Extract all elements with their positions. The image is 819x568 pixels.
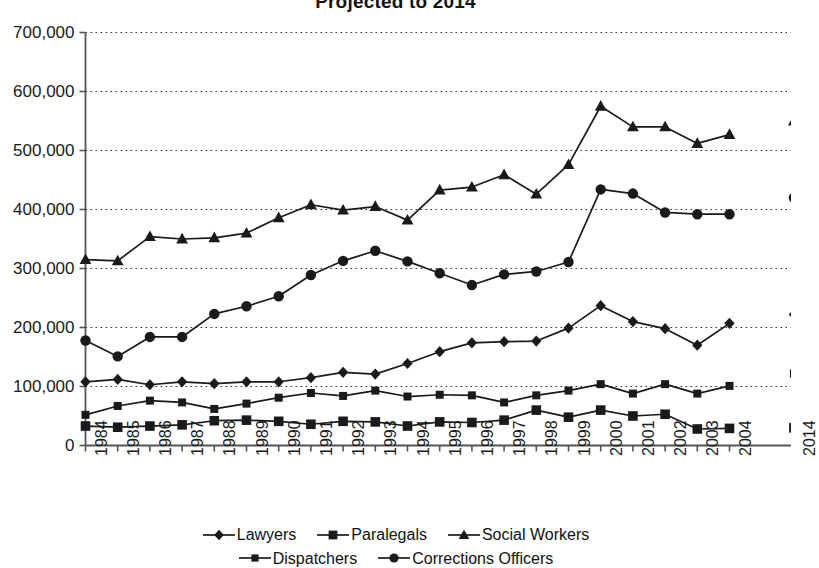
data-point-marker (402, 358, 412, 369)
data-point-marker (307, 389, 315, 397)
data-point-marker (499, 415, 509, 425)
x-axis-label: 1984 (93, 420, 111, 456)
y-axis-label: 200,000 (0, 318, 75, 338)
legend-marker-icon (238, 550, 272, 566)
data-point-marker (306, 270, 316, 280)
data-point-marker (467, 337, 477, 348)
x-axis-label: 2014 (801, 420, 819, 456)
data-point-marker (144, 230, 156, 241)
x-axis-label: 2004 (737, 420, 755, 456)
data-point-marker (210, 416, 220, 426)
data-point-marker (338, 367, 348, 378)
data-point-marker (274, 376, 284, 387)
legend-marker-icon (377, 550, 411, 566)
data-point-marker (146, 397, 154, 405)
data-point-marker (661, 380, 669, 388)
data-point-marker (209, 378, 219, 389)
data-point-marker (725, 424, 735, 434)
data-point-marker (724, 209, 734, 219)
x-axis-label: 1997 (511, 420, 529, 456)
data-point-marker (790, 370, 791, 378)
data-point-marker (467, 418, 477, 428)
x-axis-label: 2000 (608, 420, 626, 456)
data-point-marker (241, 376, 251, 387)
legend-item-label: Lawyers (237, 526, 297, 543)
data-point-marker (339, 392, 347, 400)
legend-item-label: Social Workers (482, 526, 589, 543)
data-point-marker (724, 128, 736, 139)
data-point-marker (80, 335, 90, 345)
data-point-marker (660, 207, 670, 217)
x-axis-label: 1994 (415, 420, 433, 456)
chart-legend: LawyersParalegalsSocial WorkersDispatche… (0, 523, 791, 568)
data-point-marker (726, 382, 734, 390)
data-point-marker (659, 121, 671, 132)
data-point-marker (693, 390, 701, 398)
x-axis-label: 1991 (318, 420, 336, 456)
data-point-marker (209, 309, 219, 319)
legend-item-social-workers[interactable]: Social Workers (447, 523, 589, 546)
y-axis-label: 0 (0, 436, 75, 456)
data-point-marker (564, 412, 574, 422)
y-axis-label: 600,000 (0, 82, 75, 102)
data-point-marker (145, 332, 155, 342)
data-point-marker (82, 411, 90, 419)
data-point-marker (371, 387, 379, 395)
data-point-marker (499, 336, 509, 347)
data-point-marker (369, 200, 381, 211)
data-point-marker (499, 269, 509, 279)
legend-marker-icon (447, 527, 481, 543)
data-point-marker (113, 422, 123, 432)
data-point-marker (114, 402, 122, 410)
data-point-marker (660, 323, 670, 334)
legend-row: DispatchersCorrections Officers (0, 546, 791, 568)
legend-marker-icon (316, 527, 350, 543)
x-axis-label: 1992 (350, 420, 368, 456)
data-point-marker (435, 346, 445, 357)
data-point-marker (789, 309, 791, 320)
x-axis-label: 1989 (254, 420, 272, 456)
data-point-marker (596, 300, 606, 311)
x-axis-label: 1990 (286, 420, 304, 456)
data-point-marker (338, 417, 348, 427)
data-point-marker (113, 374, 123, 385)
x-axis-label: 1998 (543, 420, 561, 456)
y-axis-label: 300,000 (0, 259, 75, 279)
legend-item-lawyers[interactable]: Lawyers (202, 523, 297, 546)
data-point-marker (596, 184, 606, 194)
data-point-marker (563, 257, 573, 267)
legend-item-paralegals[interactable]: Paralegals (316, 523, 427, 546)
data-point-marker (628, 411, 638, 421)
data-point-marker (468, 391, 476, 399)
data-point-marker (595, 100, 607, 111)
x-axis-label: 1988 (221, 420, 239, 456)
legend-row: LawyersParalegalsSocial Workers (0, 523, 791, 546)
legend-marker-icon (202, 527, 236, 543)
data-point-marker (113, 351, 123, 361)
data-point-marker (274, 417, 284, 427)
x-axis-label: 2003 (704, 420, 722, 456)
legend-item-label: Paralegals (351, 526, 427, 543)
data-point-marker (243, 400, 251, 408)
data-point-marker (404, 393, 412, 401)
data-point-marker (145, 421, 155, 431)
y-axis-label: 700,000 (0, 23, 75, 43)
data-point-marker (531, 266, 541, 276)
x-axis-label: 1995 (447, 420, 465, 456)
legend-item-corrections-officers[interactable]: Corrections Officers (377, 547, 553, 568)
data-point-marker (306, 372, 316, 383)
data-point-marker (565, 387, 573, 395)
data-point-marker (627, 121, 639, 132)
data-point-marker (371, 417, 381, 427)
data-point-marker (241, 227, 253, 238)
data-point-marker (177, 376, 187, 387)
data-point-marker (532, 405, 542, 415)
y-axis-label: 400,000 (0, 200, 75, 220)
data-point-marker (241, 301, 251, 311)
x-axis-label: 2002 (672, 420, 690, 456)
legend-item-dispatchers[interactable]: Dispatchers (238, 547, 357, 568)
x-axis-label: 1985 (125, 420, 143, 456)
data-point-marker (177, 332, 187, 342)
data-point-marker (498, 168, 510, 179)
